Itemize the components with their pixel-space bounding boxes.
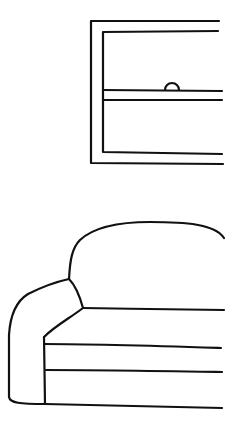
window-sash-rail-top <box>103 90 222 91</box>
sofa <box>9 222 224 408</box>
sofa-armrest-front <box>9 335 45 404</box>
sofa-backrest <box>69 222 224 279</box>
sofa-armrest-inner <box>44 279 83 337</box>
sofa-seat-back-line <box>83 308 224 310</box>
window-latch-handle-icon <box>165 83 179 90</box>
sofa-cushion-bottom <box>46 370 222 372</box>
drawing-canvas <box>0 0 238 429</box>
window <box>91 21 223 164</box>
window-inner-frame <box>103 31 222 154</box>
window-outer-frame <box>91 21 223 164</box>
sofa-base <box>45 404 222 408</box>
sofa-armrest-top <box>9 279 69 335</box>
line-drawing <box>0 0 238 429</box>
sofa-cushion-top <box>44 344 221 348</box>
